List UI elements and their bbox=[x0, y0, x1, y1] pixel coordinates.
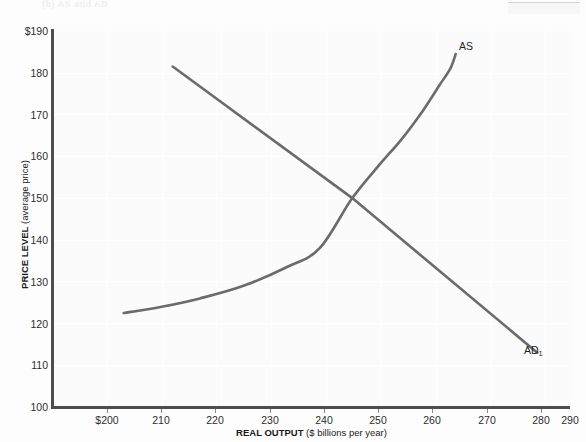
x-tick-label: 210 bbox=[152, 414, 170, 426]
y-axis-title: PRICE LEVEL (average price) bbox=[19, 125, 30, 325]
y-tick-label: 140 bbox=[30, 234, 48, 246]
y-tick-label: 100 bbox=[30, 401, 48, 413]
y-tick-label: 160 bbox=[30, 150, 48, 162]
x-tick-label: 240 bbox=[315, 414, 333, 426]
figure-caption-artifact: (b) AS and AD bbox=[42, 0, 108, 9]
x-axis-line bbox=[51, 406, 570, 409]
y-tick-label: 180 bbox=[30, 67, 48, 79]
x-axis-title-rest: ($ billions per year) bbox=[303, 427, 386, 438]
as-label-text: AS bbox=[459, 40, 473, 52]
x-tick-label: 270 bbox=[478, 414, 496, 426]
x-tick-label: 290 bbox=[561, 414, 579, 426]
x-tick-label: 260 bbox=[423, 414, 441, 426]
ad-curve-label: AD1 bbox=[524, 344, 543, 356]
y-axis-title-bold: PRICE LEVEL bbox=[19, 227, 30, 289]
as-curve-label: AS bbox=[459, 40, 473, 52]
x-tick-label: 250 bbox=[369, 414, 387, 426]
ad-label-text: AD bbox=[524, 344, 539, 356]
y-tick-label: 120 bbox=[30, 318, 48, 330]
ad-label-subscript: 1 bbox=[539, 349, 543, 358]
y-tick-label: $190 bbox=[25, 25, 48, 37]
plot-area bbox=[53, 31, 570, 407]
y-tick-label: 170 bbox=[30, 109, 48, 121]
y-tick-label: 150 bbox=[30, 192, 48, 204]
x-axis-title: REAL OUTPUT ($ billions per year) bbox=[53, 427, 570, 438]
x-tick-label: 280 bbox=[532, 414, 550, 426]
x-axis-title-bold: REAL OUTPUT bbox=[236, 427, 303, 438]
y-axis-title-rest: (average price) bbox=[19, 160, 30, 227]
y-axis-line bbox=[51, 29, 54, 409]
x-tick-label: 220 bbox=[206, 414, 224, 426]
chart-figure: (b) AS and AD $190 180 170 160 150 140 1… bbox=[0, 0, 586, 442]
y-tick-label: 130 bbox=[30, 276, 48, 288]
x-tick-label: $200 bbox=[95, 414, 118, 426]
x-tick-label: 230 bbox=[261, 414, 279, 426]
y-tick-label: 110 bbox=[31, 359, 48, 371]
scan-artifact-bar bbox=[508, 2, 580, 14]
